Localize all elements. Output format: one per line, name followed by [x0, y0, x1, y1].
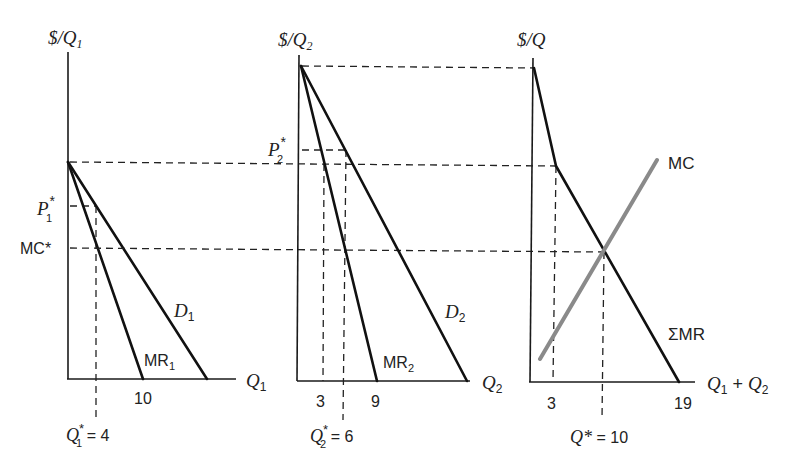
p1-tick-10: 10: [134, 390, 152, 407]
mc-curve: [540, 160, 657, 359]
p1-y-axis-label: $/Q1: [48, 27, 83, 51]
mc-star-label: MC*: [20, 240, 51, 257]
third-degree-price-discrimination-figure: $/Q1 Q1 D1 MR1 P*1 MC* 10 Q*1 = 4: [0, 0, 800, 462]
mr1-label: MR1: [144, 352, 175, 372]
p1-intercept-guide: [70, 162, 556, 166]
p2-y-axis-label: $/Q2: [278, 29, 313, 53]
p3-q-star-guide: [602, 252, 604, 420]
q2-star-label: Q*2 = 6: [310, 422, 353, 450]
mc-label: MC: [668, 154, 694, 173]
p1-star-label: P*1: [36, 193, 56, 224]
p3-x-axis-label: Q1 + Q2: [707, 373, 769, 397]
mc-star-guide: [70, 248, 604, 252]
panel-market-1: $/Q1 Q1 D1 MR1 P*1 MC* 10 Q*1 = 4: [20, 27, 267, 449]
d1-label: D1: [173, 300, 195, 324]
q-star-label: Q* = 10: [570, 427, 628, 447]
p2-q-star-guide: [343, 150, 346, 420]
p3-y-axis-label: $/Q: [517, 29, 546, 50]
p2-intercept-guide: [302, 66, 534, 68]
mr2-curve: [301, 66, 377, 381]
p2-star-label: P*2: [267, 134, 287, 165]
p2-q3-guide: [323, 164, 324, 381]
sum-mr-label: ΣMR: [668, 325, 705, 344]
d1-curve: [68, 162, 207, 379]
d2-label: D2: [444, 301, 466, 325]
p1-x-axis-label: Q1: [246, 370, 267, 394]
q1-star-label: Q*1 = 4: [66, 421, 109, 449]
p3-y-axis: [530, 58, 533, 382]
p3-tick-19: 19: [674, 395, 692, 412]
panel-combined: $/Q Q1 + Q2 MC ΣMR 3 19 Q* = 10: [517, 29, 769, 447]
mr2-label: MR2: [383, 354, 414, 374]
p2-tick-9: 9: [371, 393, 380, 410]
p2-y-axis: [297, 55, 299, 381]
p3-q3-guide: [553, 166, 556, 382]
p2-tick-3: 3: [316, 393, 325, 410]
p2-x-axis-label: Q2: [482, 372, 503, 396]
mr1-curve: [68, 162, 143, 379]
d2-curve: [301, 66, 467, 381]
p3-tick-3: 3: [547, 395, 556, 412]
panel-market-2: $/Q2 Q2 D2 MR2 P*2 3 9 Q*2 = 6: [267, 29, 503, 450]
